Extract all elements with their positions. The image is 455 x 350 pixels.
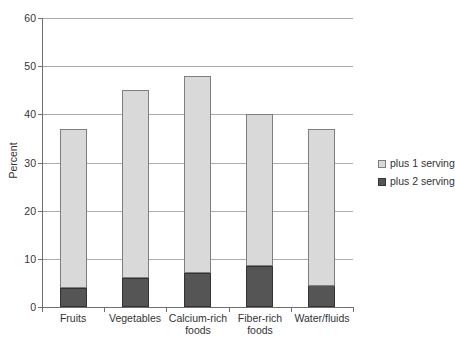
x-axis-line [42,307,354,308]
bar-segment-plus-2-serving [246,266,273,307]
y-tick-mark [38,259,42,260]
legend-swatch-plus-2-serving [378,178,386,186]
bar-segment-plus-1-serving [184,76,211,273]
x-category-label: Vegetables [100,312,170,324]
x-category-label: Fiber-rich foods [225,312,295,336]
y-tick-mark [38,66,42,67]
bar-segment-plus-1-serving [246,114,273,266]
y-tick-label: 0 [4,301,36,313]
y-axis-line [42,18,43,308]
bar-segment-plus-2-serving [60,288,87,307]
legend-label: plus 2 serving [390,175,455,188]
y-tick-label: 60 [4,12,36,24]
y-tick-label: 10 [4,253,36,265]
legend-label: plus 1 serving [390,157,455,170]
y-tick-mark [38,114,42,115]
bar-segment-plus-1-serving [122,90,149,278]
y-tick-label: 40 [4,108,36,120]
bar-segment-plus-1-serving [308,129,335,286]
x-category-label: Fruits [38,312,108,324]
x-category-label: Water/fluids [287,312,357,324]
bar-segment-plus-2-serving [184,273,211,307]
bar-segment-plus-2-serving [122,278,149,307]
legend-swatch-plus-1-serving [378,160,386,168]
x-category-label: Calcium-rich foods [163,312,233,336]
y-tick-label: 20 [4,205,36,217]
y-tick-mark [38,18,42,19]
y-tick-mark [38,211,42,212]
y-tick-label: 30 [4,157,36,169]
gridline [42,66,353,67]
bar-segment-plus-2-serving [308,285,335,307]
legend: plus 1 servingplus 2 serving [378,157,455,193]
bar-segment-plus-1-serving [60,129,87,288]
legend-item: plus 2 serving [378,175,455,188]
gridline [42,18,353,19]
legend-item: plus 1 serving [378,157,455,170]
y-tick-label: 50 [4,60,36,72]
y-tick-mark [38,163,42,164]
